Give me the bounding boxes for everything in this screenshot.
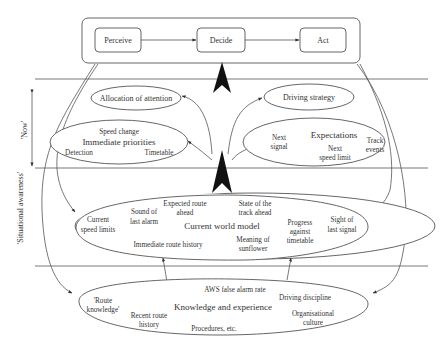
driving-strategy-oval: Driving strategy — [264, 84, 354, 110]
svg-text:signal: signal — [270, 143, 287, 151]
allocation-label: Allocation of attention — [100, 94, 172, 103]
perceive-label: Perceive — [104, 36, 132, 45]
svg-text:Immediate priorities: Immediate priorities — [82, 137, 156, 147]
svg-text:events: events — [366, 146, 385, 154]
svg-text:Meaning of: Meaning of — [236, 236, 270, 244]
svg-text:Speed change: Speed change — [99, 128, 139, 136]
svg-text:ahead: ahead — [177, 209, 194, 217]
svg-text:Next: Next — [272, 134, 286, 142]
right-outer-curve — [357, 64, 406, 293]
perceive-decide-act-box: Perceive Decide Act — [82, 18, 360, 63]
svg-text:Immediate route history: Immediate route history — [133, 241, 202, 249]
svg-text:Sound of: Sound of — [131, 208, 158, 216]
immediate-priorities-oval: Speed change Immediate priorities Detect… — [50, 120, 188, 164]
arrow-to-priorities — [188, 141, 212, 160]
svg-text:State of the: State of the — [239, 200, 272, 208]
svg-text:last signal: last signal — [328, 226, 357, 234]
left-outer-curve — [42, 64, 95, 293]
svg-text:Progress: Progress — [288, 219, 313, 227]
svg-text:speed limit: speed limit — [319, 154, 351, 162]
arrow-knowledge-to-model-right — [287, 258, 291, 280]
svg-text:Timetable: Timetable — [145, 149, 174, 157]
svg-text:Next: Next — [328, 145, 342, 153]
svg-text:Driving discipline: Driving discipline — [279, 294, 331, 302]
svg-text:timetable: timetable — [287, 237, 314, 245]
svg-text:Current: Current — [87, 216, 109, 224]
svg-text:Expected route: Expected route — [163, 200, 206, 208]
svg-text:track ahead: track ahead — [239, 209, 272, 217]
svg-text:last alarm: last alarm — [130, 218, 159, 226]
svg-text:against: against — [290, 228, 310, 236]
situational-awareness-label: 'Situational awareness' — [16, 171, 25, 244]
svg-text:'Route: 'Route — [94, 297, 112, 305]
arrow-knowledge-to-model-left — [163, 258, 167, 282]
svg-text:Sight of: Sight of — [331, 216, 355, 224]
world-model-title: Current world model — [184, 221, 260, 231]
expectations-oval: Next signal Expectations Next speed limi… — [243, 118, 385, 166]
svg-text:Organisational: Organisational — [292, 310, 334, 318]
svg-text:AWS false alarm rate: AWS false alarm rate — [204, 286, 266, 294]
decide-label: Decide — [210, 36, 233, 45]
svg-text:Procedures, etc.: Procedures, etc. — [191, 325, 237, 333]
svg-text:Detection: Detection — [65, 149, 93, 157]
now-label: 'Now' — [20, 120, 29, 139]
allocation-of-attention-oval: Allocation of attention — [91, 86, 181, 110]
big-arrow-upper — [213, 62, 231, 93]
svg-text:speed limits: speed limits — [81, 226, 116, 234]
svg-text:Expectations: Expectations — [311, 130, 358, 140]
knowledge-title: Knowledge and experience — [174, 302, 272, 312]
svg-text:Track: Track — [367, 137, 384, 145]
svg-text:sunflower: sunflower — [239, 245, 268, 253]
strategy-label: Driving strategy — [283, 93, 335, 102]
svg-text:Recent route: Recent route — [131, 312, 168, 320]
svg-text:knowledge': knowledge' — [87, 306, 120, 314]
svg-text:culture: culture — [303, 319, 323, 327]
situational-awareness-diagram: Perceive Decide Act 'Now' 'Situational a… — [0, 0, 442, 355]
big-arrow-lower — [212, 150, 232, 193]
svg-text:history: history — [139, 321, 159, 329]
act-label: Act — [317, 36, 329, 45]
